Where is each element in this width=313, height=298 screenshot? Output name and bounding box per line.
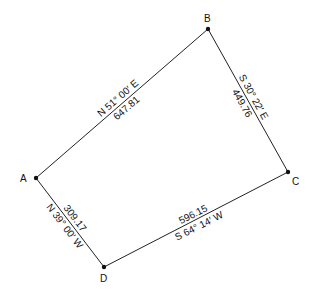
course-line-cd (104, 172, 288, 267)
point-c-marker (286, 170, 290, 174)
traverse-diagram: A B C D N 51° 00′ E 647.81 S 30° 22′ E 4… (0, 0, 313, 298)
point-d-label: D (100, 273, 107, 284)
point-a-label: A (20, 173, 27, 184)
point-c-label: C (292, 176, 299, 187)
point-a-marker (34, 176, 38, 180)
point-d-marker (102, 265, 106, 269)
point-b-label: B (204, 13, 211, 24)
point-b-marker (206, 27, 210, 31)
